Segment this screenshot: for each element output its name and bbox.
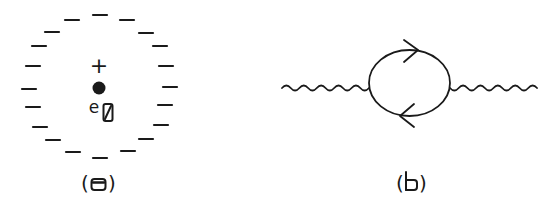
svg-text:(: ( <box>396 171 404 195</box>
panel-a-label: ( ) <box>81 171 116 195</box>
svg-text:(: ( <box>81 171 89 195</box>
fermion-loop <box>369 50 450 116</box>
central-charge-dot <box>93 82 106 95</box>
photon-line-left <box>282 86 369 91</box>
photon-line-right <box>450 86 537 91</box>
svg-text:): ) <box>419 171 427 195</box>
panel-a: + e ( ) <box>22 15 177 195</box>
charge-label-e: e <box>89 97 99 117</box>
svg-text:): ) <box>108 171 116 195</box>
figure: + e ( ) ( ) <box>0 0 558 206</box>
panel-b-label: ( ) <box>396 171 427 195</box>
central-plus-sign: + <box>90 53 108 78</box>
charge-subscript-zero <box>104 104 113 121</box>
panel-b: ( ) <box>282 40 537 195</box>
